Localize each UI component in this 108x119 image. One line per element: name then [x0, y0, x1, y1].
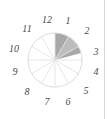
- hour-label-3: 3: [94, 47, 99, 57]
- hour-label-5: 5: [84, 86, 89, 96]
- hour-label-7: 7: [45, 97, 50, 107]
- hour-label-6: 6: [66, 97, 71, 107]
- hour-label-10: 10: [9, 44, 19, 54]
- clock-rose-diagram: 1 2 3 4 5 6 7 8 9 10 11 12: [0, 0, 108, 119]
- hour-label-1: 1: [66, 16, 71, 26]
- hour-label-8: 8: [25, 87, 30, 97]
- clock-face-svg: [0, 0, 108, 119]
- hour-label-11: 11: [22, 24, 31, 34]
- hour-label-4: 4: [94, 67, 99, 77]
- hour-label-9: 9: [13, 67, 18, 77]
- hour-label-2: 2: [85, 26, 90, 36]
- hour-label-12: 12: [42, 15, 52, 25]
